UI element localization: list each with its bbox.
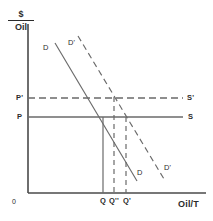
quantity-label-q-double-prime: Q'' [109, 197, 119, 205]
demand-curve-d [55, 43, 137, 181]
y-axis-title: $ Oil [8, 9, 34, 32]
demand-label-d-bottom: D [137, 169, 143, 177]
demand-curve-d-prime [78, 36, 164, 179]
supply-label-s-prime: S' [187, 94, 194, 102]
price-label-p: P [17, 113, 22, 121]
supply-demand-figure: $ Oil Oil/T 0 P' P S' S Q Q'' Q' D D' D … [0, 0, 213, 221]
demand-label-d-top: D [43, 44, 49, 52]
quantity-label-q-prime: Q' [123, 197, 131, 205]
plot-canvas [0, 0, 213, 221]
quantity-label-q: Q [100, 197, 106, 205]
y-axis-title-numerator: $ [8, 9, 34, 20]
price-label-p-prime: P' [16, 94, 23, 102]
supply-label-s: S [188, 113, 193, 121]
y-axis-title-denominator: Oil [8, 20, 34, 32]
demand-label-d-prime-bottom: D' [164, 164, 171, 172]
demand-label-d-prime-top: D' [68, 39, 75, 47]
x-axis-title: Oil/T [178, 200, 199, 209]
origin-label: 0 [12, 198, 16, 205]
